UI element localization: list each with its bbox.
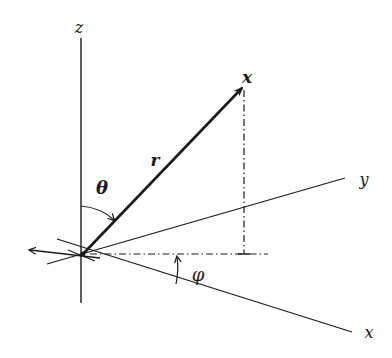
theta-label: θ — [96, 179, 108, 197]
z-axis-label: z — [75, 20, 83, 36]
spherical-coordinates-diagram: z y x x r θ φ — [0, 0, 392, 358]
diagram-canvas — [0, 0, 392, 358]
point-label: x — [242, 69, 252, 86]
origin-point — [81, 252, 86, 257]
radius-vector — [83, 88, 242, 254]
theta-arc — [81, 206, 114, 220]
x-axis — [57, 239, 352, 332]
x-axis-label: x — [364, 325, 373, 341]
phi-label: φ — [192, 266, 205, 284]
y-axis-label: y — [359, 172, 368, 188]
phi-arc — [176, 257, 178, 284]
y-axis — [47, 178, 345, 264]
radius-label: r — [151, 152, 160, 169]
